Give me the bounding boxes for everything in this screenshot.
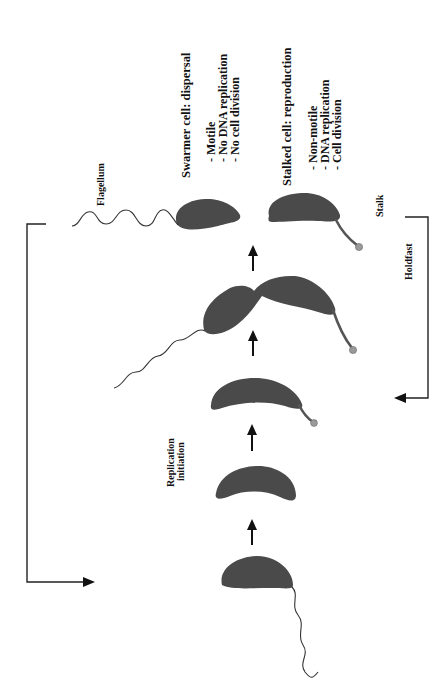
arrow-up-icon bbox=[247, 519, 257, 545]
holdfast-icon bbox=[355, 243, 362, 250]
stalked-label-block: Stalked cell: reproduction - Non-motile … bbox=[280, 48, 344, 186]
caulobacter-cell-cycle-diagram: Swarmer cell: dispersal - Motile - No DN… bbox=[0, 0, 442, 689]
holdfast-icon bbox=[311, 420, 318, 427]
stage-stalked-cell bbox=[211, 378, 318, 426]
arrow-head-icon bbox=[83, 577, 95, 587]
arrow-up-icon bbox=[248, 330, 258, 356]
flagellum-label: Flagellum bbox=[95, 163, 106, 206]
swarmer-label-block: Swarmer cell: dispersal - Motile - No DN… bbox=[179, 52, 242, 178]
replication-label-line2: initiation bbox=[175, 442, 186, 481]
swarmer-item-no-cell-division: - No cell division bbox=[228, 77, 242, 162]
stalked-title: Stalked cell: reproduction bbox=[280, 48, 294, 186]
stage-daughter-stalked-cell bbox=[268, 193, 362, 251]
arrow-head-icon bbox=[394, 393, 406, 403]
stalked-item-cell-division: - Cell division bbox=[330, 99, 344, 170]
swarmer-title: Swarmer cell: dispersal bbox=[179, 52, 193, 178]
arrow-up-icon bbox=[248, 245, 258, 271]
arrow-up-icon bbox=[247, 424, 257, 451]
stage-predivisional-cell bbox=[114, 276, 357, 388]
holdfast-label: Holdfast bbox=[403, 243, 414, 280]
stage-swarmer-cell bbox=[221, 556, 318, 677]
holdfast-icon bbox=[349, 346, 356, 353]
stage-replication-initiation-cell bbox=[216, 466, 296, 501]
cycle-return-arrow-left bbox=[27, 224, 95, 587]
stalk-label: Stalk bbox=[374, 194, 385, 217]
